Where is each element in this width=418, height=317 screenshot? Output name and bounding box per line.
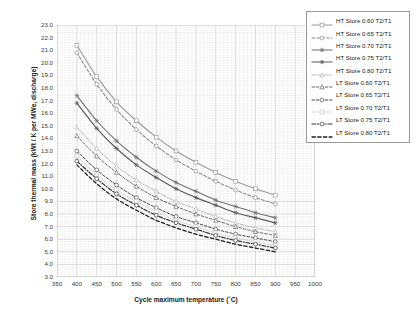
legend-label: HT Store 0.80 T2/T1	[336, 68, 391, 74]
y-tick-label: 13.0	[27, 147, 53, 154]
legend-swatch-icon	[311, 41, 333, 51]
legend-item[interactable]: HT Store 0.70 T2/T1	[309, 40, 407, 52]
legend-item[interactable]: HT Store 0.75 T2/T1	[309, 52, 407, 64]
legend-label: HT Store 0.60 T2/T1	[336, 18, 391, 24]
y-tick-label: 14.0	[27, 134, 53, 141]
y-tick-label: 4.0	[27, 260, 53, 267]
legend-swatch-icon	[311, 16, 333, 26]
y-tick-label: 9.0	[27, 197, 53, 204]
legend-item[interactable]: HT Store 0.65 T2/T1	[309, 27, 407, 39]
y-tick-label: 18.0	[27, 84, 53, 91]
y-tick-label: 12.0	[27, 160, 53, 167]
legend-label: LT Store 0.80 T2/T1	[336, 130, 390, 136]
y-tick-label: 19.0	[27, 71, 53, 78]
y-tick-label: 10.0	[27, 185, 53, 192]
y-tick-label: 17.0	[27, 97, 53, 104]
y-axis-title-wrapper: Store thermal mass (kWt / K per MWe, dis…	[4, 30, 18, 280]
x-axis-title: Cycle maximum temperature (˚C)	[57, 296, 315, 303]
legend-swatch-icon	[311, 128, 333, 138]
legend-label: LT Store 0.60 T2/T1	[336, 80, 390, 86]
legend-label: HT Store 0.65 T2/T1	[336, 31, 391, 37]
y-tick-label: 11.0	[27, 172, 53, 179]
chart-container: Store thermal mass (kWt / K per MWe, dis…	[0, 0, 418, 317]
legend-swatch-icon	[311, 53, 333, 63]
legend-item[interactable]: LT Store 0.60 T2/T1	[309, 77, 407, 89]
legend-swatch-icon	[311, 115, 333, 125]
x-tick-label: 1000	[300, 280, 330, 287]
legend-swatch-icon	[311, 29, 333, 39]
y-tick-label: 22.0	[27, 34, 53, 41]
legend-label: LT Store 0.75 T2/T1	[336, 117, 390, 123]
legend-label: LT Store 0.70 T2/T1	[336, 105, 390, 111]
y-tick-label: 5.0	[27, 248, 53, 255]
y-tick-label: 3.0	[27, 273, 53, 280]
legend-item[interactable]: LT Store 0.65 T2/T1	[309, 89, 407, 101]
legend-item[interactable]: HT Store 0.60 T2/T1	[309, 15, 407, 27]
legend-swatch-icon	[311, 103, 333, 113]
legend-label: LT Store 0.65 T2/T1	[336, 92, 390, 98]
legend-label: HT Store 0.70 T2/T1	[336, 43, 391, 49]
y-tick-label: 21.0	[27, 46, 53, 53]
chart-legend: HT Store 0.60 T2/T1HT Store 0.65 T2/T1HT…	[306, 11, 410, 143]
legend-item[interactable]: LT Store 0.70 T2/T1	[309, 102, 407, 114]
legend-swatch-icon	[311, 66, 333, 76]
plot-area	[57, 25, 315, 277]
legend-swatch-icon	[311, 78, 333, 88]
y-tick-label: 8.0	[27, 210, 53, 217]
data-series-layer	[57, 25, 315, 277]
y-tick-label: 20.0	[27, 59, 53, 66]
y-tick-label: 6.0	[27, 235, 53, 242]
legend-item[interactable]: LT Store 0.75 T2/T1	[309, 114, 407, 126]
legend-item[interactable]: HT Store 0.80 T2/T1	[309, 65, 407, 77]
legend-label: HT Store 0.75 T2/T1	[336, 55, 391, 61]
legend-item[interactable]: LT Store 0.80 T2/T1	[309, 127, 407, 139]
legend-swatch-icon	[311, 91, 333, 101]
y-tick-label: 7.0	[27, 223, 53, 230]
y-tick-label: 23.0	[27, 21, 53, 28]
y-tick-label: 15.0	[27, 122, 53, 129]
y-tick-label: 16.0	[27, 109, 53, 116]
